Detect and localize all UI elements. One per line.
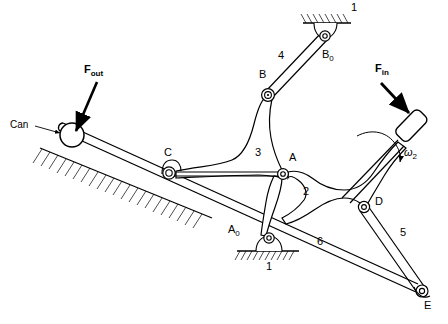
joint-A-label: A [289, 152, 296, 163]
joint-B-label: B [259, 69, 266, 80]
handle-grip [394, 108, 429, 144]
force-out-arrow [76, 82, 97, 131]
linkage-diagram-svg [0, 0, 448, 324]
link-1-top-label: 1 [351, 2, 357, 13]
link-1-bottom-label: 1 [266, 261, 272, 272]
joint-E-label: E [424, 300, 431, 311]
joint-D [358, 201, 369, 212]
link-5-label: 5 [400, 227, 406, 238]
force-in-arrow [381, 83, 409, 113]
joint-E [414, 285, 430, 297]
ground-pivot-B0 [301, 14, 351, 41]
figure-canvas: Fout Fin Can ω2 A A0 B B0 C D E 1 1 2 3 … [0, 0, 448, 324]
link-3-body [176, 98, 282, 178]
link-6-label: 6 [317, 236, 323, 247]
ground-pivot-A0 [235, 233, 299, 260]
can-label: Can [10, 120, 28, 130]
link-4-label: 4 [278, 50, 284, 61]
link-5-coupler [360, 206, 426, 294]
joint-A0-label: A0 [228, 224, 240, 238]
joint-C-label: C [164, 147, 172, 158]
joint-A [278, 169, 289, 180]
force-out-label: Fout [84, 64, 103, 78]
joint-D-label: D [375, 196, 383, 207]
joint-B0-label: B0 [322, 49, 334, 63]
force-in-label: Fin [375, 63, 389, 77]
link-4-coupler [266, 32, 328, 98]
link-2-label: 2 [303, 186, 309, 197]
link-3-label: 3 [255, 147, 261, 158]
link-2-ternary [282, 142, 406, 224]
can-shape [60, 123, 84, 147]
omega2-label: ω2 [404, 147, 417, 161]
joint-B [262, 89, 275, 102]
can-leader-line [35, 126, 60, 133]
